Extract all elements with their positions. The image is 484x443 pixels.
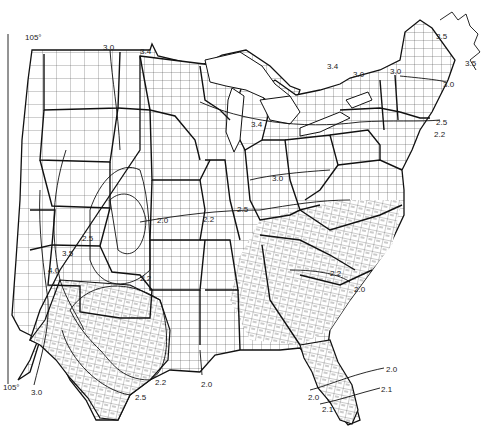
contour-label: 2.1 [322,406,333,414]
contour-label: 3.0 [443,81,454,89]
contour-label: 3.5 [465,60,476,68]
contour-label: 3.0 [390,68,401,76]
contour-label: 3.4 [251,121,262,129]
contour-label: 2.0 [201,381,212,389]
contour-label: 2.0 [354,286,365,294]
contour-label: 3.0 [31,389,42,397]
contour-label: 3.5 [62,250,73,258]
contour-label: 2.5 [135,394,146,402]
contour-label: 2.1 [381,386,392,394]
contour-label: 3.0 [353,71,364,79]
contour-label: 2.0 [386,366,397,374]
contour-label: 3.5 [436,33,447,41]
contour-label: 3.0 [272,175,283,183]
contour-label: 2.2 [330,270,341,278]
contour-label: 2.5 [237,206,248,214]
contour-label: 2.5 [436,119,447,127]
us-county-map [0,0,484,443]
contour-label: 2.5 [82,235,93,243]
contour-label: 3.4 [140,48,151,56]
contour-label: 2.0 [157,217,168,225]
contour-label: 4.0 [48,267,59,275]
contour-label: 2.2 [203,216,214,224]
meridian-label: 105° [25,34,42,42]
contour-label: 2.2 [434,131,445,139]
contour-label: 3.0 [103,44,114,52]
meridian-label: 105° [3,384,20,392]
contour-label: 2.2 [140,275,151,283]
contour-label: 3.4 [327,63,338,71]
contour-label: 2.0 [308,394,319,402]
contour-label: 2.2 [155,379,166,387]
